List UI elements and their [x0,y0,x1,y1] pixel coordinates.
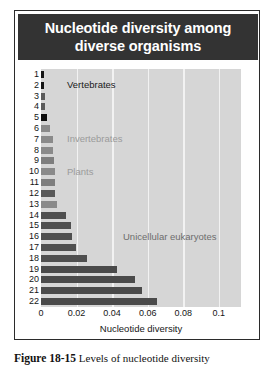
y-axis-tick-labels: 12345678910111213141516171819202122 [18,69,40,307]
y-axis-tick-label: 3 [34,92,39,101]
y-axis-tick-label: 1 [34,70,39,79]
chart-bar [41,233,72,240]
y-axis-tick-label: 12 [29,189,39,198]
chart-bar [41,168,55,175]
chart-bar [41,201,57,208]
chart-bar [41,266,117,273]
y-axis-tick-label: 4 [34,102,39,111]
chart-gridline [183,69,184,307]
x-axis-title: Nucleotide diversity [41,324,241,334]
chart-gridline [219,69,220,307]
figure-page: Nucleotide diversity among diverse organ… [0,0,274,379]
chart-annotation-label: Invertebrates [67,134,122,144]
plot-area: 12345678910111213141516171819202122 Vert… [18,63,258,338]
chart-bar [41,114,47,121]
y-axis-tick-label: 16 [29,232,39,241]
chart-gridline [148,69,149,307]
y-axis-tick-label: 10 [29,167,39,176]
y-axis-tick-label: 13 [29,200,39,209]
x-axis-tick-label: 0.08 [174,309,192,318]
chart-bar [41,190,55,197]
y-axis-tick-label: 20 [29,275,39,284]
y-axis-tick-label: 15 [29,221,39,230]
chart-bar [41,136,53,143]
y-axis-tick-label: 14 [29,211,39,220]
x-axis-tick-label: 0.04 [103,309,121,318]
chart-bar [41,147,53,154]
y-axis-tick-label: 6 [34,124,39,133]
chart-panel: VertebratesInvertebratesPlantsUnicellula… [41,69,241,307]
x-axis-tick-label: 0.06 [139,309,157,318]
chart-bar [41,244,76,251]
chart-bar [41,298,157,305]
x-axis-tick-label: 0.02 [68,309,86,318]
y-axis-tick-label: 11 [30,178,39,187]
chart-bar [41,103,45,110]
chart-bar [41,255,87,262]
y-axis-tick-label: 2 [34,81,39,90]
chart-bar [41,71,44,78]
y-axis-tick-label: 9 [34,156,39,165]
y-axis-tick-label: 19 [29,265,39,274]
chart-title-banner: Nucleotide diversity among diverse organ… [18,14,258,60]
y-axis-tick-label: 22 [29,297,39,306]
chart-bar [41,82,44,89]
y-axis-tick-label: 21 [29,286,39,295]
chart-title: Nucleotide diversity among diverse organ… [18,19,258,55]
figure-card: Nucleotide diversity among diverse organ… [14,10,260,340]
y-axis-tick-label: 7 [34,135,39,144]
chart-annotation-label: Unicellular eukaryotes [123,232,216,242]
chart-bar [41,222,71,229]
figure-number: Figure 18-15 [14,352,76,364]
y-axis-tick-label: 18 [29,254,39,263]
chart-annotation-label: Plants [67,167,93,177]
x-axis-tick-label: 0 [38,309,43,318]
y-axis-tick-label: 17 [29,243,39,252]
y-axis-tick-label: 8 [34,146,39,155]
chart-bar [41,287,142,294]
figure-caption-text: Levels of nucleotide diversity [79,352,210,364]
chart-bar [41,125,50,132]
chart-bar [41,276,135,283]
figure-caption: Figure 18-15 Levels of nucleotide divers… [14,352,264,366]
x-axis-tick-label: 0.1 [213,309,226,318]
chart-annotation-label: Vertebrates [67,80,116,90]
x-axis-tick-labels: 00.020.040.060.080.1 [41,309,241,323]
chart-bar [41,93,45,100]
chart-bar [41,179,55,186]
chart-bar [41,157,54,164]
y-axis-tick-label: 5 [34,113,39,122]
chart-bar [41,212,66,219]
